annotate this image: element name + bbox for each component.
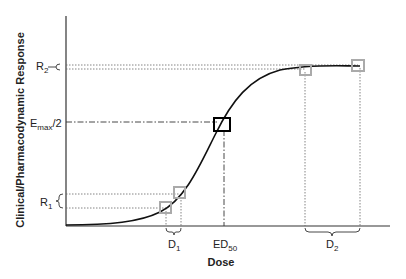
ed50-label: ED50 [213, 238, 238, 253]
r2-bracket [48, 64, 60, 70]
dose-response-chart: R2 Emax/2 R1 D1 ED50 D2 Dose Clinical/Ph… [0, 0, 406, 279]
d1-bracket [166, 228, 181, 235]
r1-label: R1 [40, 196, 53, 211]
d2-bracket [305, 228, 360, 236]
d2-label: D2 [326, 238, 339, 253]
d1-label: D1 [168, 238, 181, 253]
y-axis-title: Clinical/Pharmacodynamic Response [14, 32, 26, 228]
dose-response-curve [66, 66, 360, 225]
r1-bracket [56, 194, 63, 208]
r2-label: R2 [36, 60, 49, 75]
emax-half-label: Emax/2 [30, 117, 62, 132]
d2-drop-lines [305, 68, 360, 226]
point-markers [160, 60, 364, 213]
x-axis-title: Dose [208, 256, 235, 268]
